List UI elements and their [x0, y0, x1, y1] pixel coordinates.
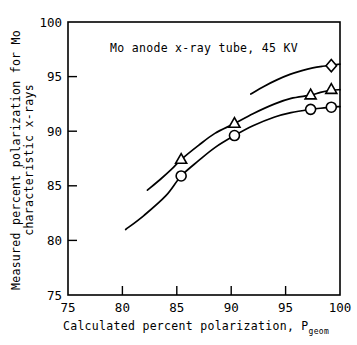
x-axis-label-main: Calculated percent polarization, P: [63, 319, 309, 333]
marker-circle-85.4: [176, 171, 186, 181]
x-tick-label-90: 90: [224, 300, 239, 315]
marker-circle-99.2: [326, 102, 336, 112]
polarization-scatter-chart: 7580859095100 7580859095100 Mo anode x-r…: [0, 0, 357, 345]
y-tick-label-85: 85: [47, 178, 62, 193]
y-tick-label-80: 80: [47, 233, 62, 248]
y-axis-label-line1: Measured percent polarization for Mo: [9, 30, 23, 290]
chart-figure: 7580859095100 7580859095100 Mo anode x-r…: [0, 0, 357, 345]
marker-circle-97.3: [306, 104, 316, 114]
y-tick-label-100: 100: [39, 15, 62, 30]
y-axis-label-line2: characteristic x-rays: [22, 84, 36, 236]
x-tick-label-95: 95: [278, 300, 293, 315]
x-tick-label-75: 75: [60, 300, 75, 315]
plot-annotation: Mo anode x-ray tube, 45 KV: [110, 41, 298, 55]
x-tick-label-85: 85: [169, 300, 184, 315]
x-tick-label-100: 100: [329, 300, 352, 315]
y-tick-label-90: 90: [47, 124, 62, 139]
x-axis-label-subscript: geom: [309, 327, 329, 336]
y-tick-label-95: 95: [47, 69, 62, 84]
marker-circle-90.3: [229, 131, 239, 141]
x-tick-label-80: 80: [115, 300, 130, 315]
